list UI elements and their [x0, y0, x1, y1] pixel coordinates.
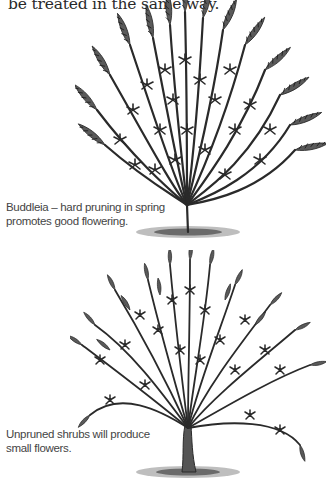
figure-caption-buddleia: Buddleia – hard pruning in spring promot…: [6, 200, 176, 228]
figure-caption-unpruned: Unpruned shrubs will produce small flowe…: [6, 427, 176, 455]
